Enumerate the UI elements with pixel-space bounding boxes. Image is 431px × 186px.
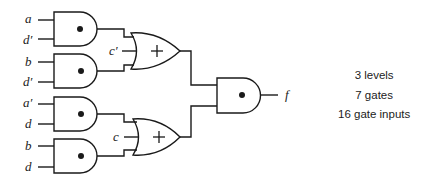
input-label-c-prime: c′ <box>109 44 118 57</box>
and-gate-final <box>217 78 278 113</box>
and-gate-3 <box>38 97 97 131</box>
and-dot-icon <box>239 92 245 98</box>
and-gate-1 <box>38 12 97 46</box>
input-label-d-prime: d′ <box>23 75 32 88</box>
input-label-d-prime: d′ <box>23 33 32 46</box>
and-dot-icon <box>78 153 84 159</box>
input-label-d: d <box>25 160 32 173</box>
stat-gate-inputs: 16 gate inputs <box>338 105 410 125</box>
circuit-stats: 3 levels 7 gates 16 gate inputs <box>338 66 410 125</box>
and-dot-icon <box>78 68 84 74</box>
and-dot-icon <box>77 26 83 32</box>
input-label-b: b <box>25 139 32 152</box>
input-label-d: d <box>25 117 32 130</box>
or-plus-icon <box>151 45 163 57</box>
and-gate-4 <box>38 139 97 173</box>
stat-levels: 3 levels <box>338 66 410 86</box>
input-label-c: c <box>113 130 119 143</box>
and-gate-2 <box>38 54 97 88</box>
and-dot-icon <box>78 111 84 117</box>
output-label-f: f <box>285 88 289 101</box>
input-label-a: a <box>25 12 32 25</box>
input-label-a-prime: a′ <box>23 96 32 109</box>
stat-gates: 7 gates <box>338 86 410 106</box>
input-label-b: b <box>25 55 32 68</box>
or-plus-icon <box>153 131 165 143</box>
